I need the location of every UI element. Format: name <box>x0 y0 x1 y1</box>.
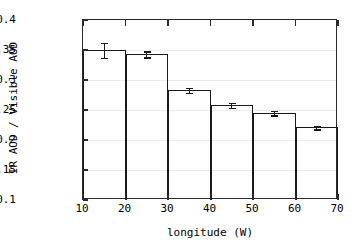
x-tick-mark-top <box>167 20 168 26</box>
error-bar-cap-lower <box>314 129 321 130</box>
error-bar-cap-upper <box>186 88 193 89</box>
y-tick-mark <box>83 109 88 110</box>
x-tick-label: 10 <box>62 203 102 215</box>
y-tick-label: 0.4 <box>0 14 16 25</box>
error-bar-cap-lower <box>101 58 108 59</box>
y-tick-label: 0.1 <box>0 194 16 205</box>
x-tick-label: 30 <box>147 203 187 215</box>
error-bar <box>104 43 105 58</box>
y-tick-mark <box>83 199 88 200</box>
y-tick-label: 0.35 <box>0 44 16 55</box>
x-tick-mark-top <box>337 20 338 26</box>
error-bar-cap-lower <box>144 57 151 58</box>
bar <box>126 54 169 200</box>
bar <box>253 113 296 200</box>
error-bar-cap-upper <box>229 103 236 104</box>
x-tick-mark <box>210 194 211 200</box>
y-tick-mark <box>83 79 88 80</box>
y-tick-label: 0.2 <box>0 134 16 145</box>
error-bar-cap-upper <box>101 43 108 44</box>
x-tick-mark-top <box>210 20 211 26</box>
x-tick-mark <box>295 194 296 200</box>
chart-figure: IR AOD / Visible AOD 0.10.150.20.250.30.… <box>0 0 360 251</box>
y-tick-label: 0.3 <box>0 74 16 85</box>
error-bar-cap-upper <box>144 51 151 52</box>
x-tick-mark-top <box>295 20 296 26</box>
y-tick-mark <box>83 169 88 170</box>
x-tick-mark-top <box>125 20 126 26</box>
bar <box>296 127 339 200</box>
x-axis-title: longitude (W) <box>82 226 338 239</box>
x-tick-label: 20 <box>105 203 145 215</box>
plot-area <box>82 19 337 199</box>
y-tick-label: 0.15 <box>0 164 16 175</box>
bar <box>83 50 126 200</box>
error-bar-cap-lower <box>229 108 236 109</box>
error-bar-cap-upper <box>271 111 278 112</box>
x-tick-mark <box>337 194 338 200</box>
error-bar-cap-lower <box>186 93 193 94</box>
x-tick-mark-top <box>252 20 253 26</box>
x-tick-label: 60 <box>275 203 315 215</box>
x-tick-mark-top <box>82 20 83 26</box>
error-bar-cap-lower <box>271 115 278 116</box>
bar <box>211 105 254 200</box>
y-tick-mark <box>83 19 88 20</box>
x-tick-label: 50 <box>232 203 272 215</box>
error-bar-cap-upper <box>314 126 321 127</box>
x-tick-mark <box>167 194 168 200</box>
x-tick-label: 40 <box>190 203 230 215</box>
x-tick-label: 70 <box>317 203 357 215</box>
y-tick-mark <box>83 139 88 140</box>
x-tick-mark <box>252 194 253 200</box>
y-tick-mark <box>83 49 88 50</box>
x-tick-mark <box>125 194 126 200</box>
bar <box>168 90 211 200</box>
y-tick-label: 0.25 <box>0 104 16 115</box>
